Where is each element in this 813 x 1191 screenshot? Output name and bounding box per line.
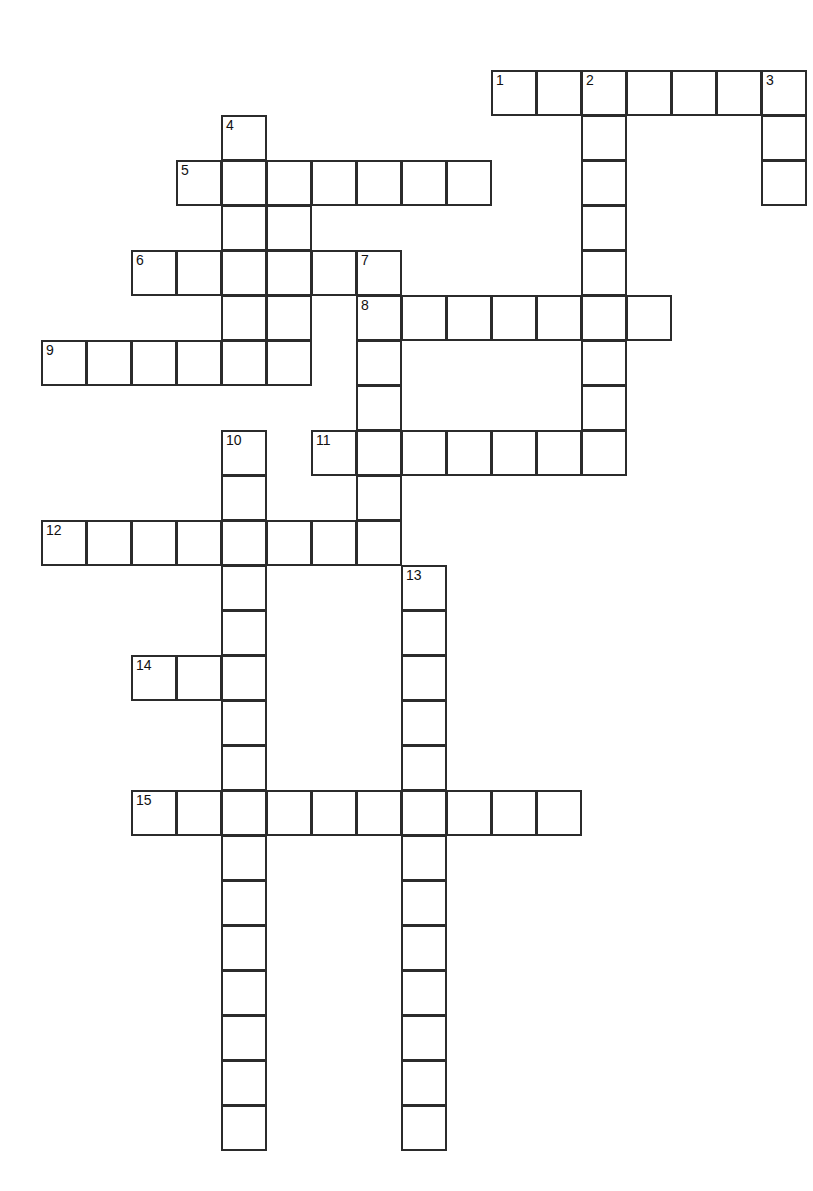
crossword-cell[interactable] (176, 790, 222, 836)
crossword-cell[interactable] (536, 790, 582, 836)
crossword-cell[interactable] (446, 430, 492, 476)
crossword-cell-start-1[interactable]: 1 (491, 70, 537, 116)
crossword-cell[interactable] (401, 160, 447, 206)
crossword-cell[interactable] (626, 70, 672, 116)
crossword-cell[interactable] (401, 700, 447, 746)
crossword-cell-start-9[interactable]: 9 (41, 340, 87, 386)
crossword-cell[interactable] (221, 880, 267, 926)
crossword-cell[interactable] (761, 115, 807, 161)
crossword-cell[interactable] (581, 340, 627, 386)
crossword-cell[interactable] (356, 340, 402, 386)
crossword-cell[interactable] (401, 745, 447, 791)
crossword-cell-start-12[interactable]: 12 (41, 520, 87, 566)
crossword-cell[interactable] (536, 295, 582, 341)
crossword-cell[interactable] (266, 295, 312, 341)
crossword-cell[interactable] (356, 520, 402, 566)
crossword-cell[interactable] (401, 970, 447, 1016)
crossword-cell-start-6[interactable]: 6 (131, 250, 177, 296)
crossword-cell[interactable] (311, 790, 357, 836)
crossword-cell[interactable] (491, 295, 537, 341)
crossword-cell[interactable] (221, 610, 267, 656)
crossword-cell[interactable] (581, 115, 627, 161)
crossword-cell[interactable] (266, 790, 312, 836)
crossword-cell[interactable] (356, 385, 402, 431)
crossword-cell[interactable] (356, 160, 402, 206)
crossword-cell[interactable] (221, 1015, 267, 1061)
crossword-cell[interactable] (221, 1105, 267, 1151)
crossword-cell-start-5[interactable]: 5 (176, 160, 222, 206)
crossword-grid[interactable]: 123456789101112131415 (0, 0, 813, 1191)
crossword-cell[interactable] (221, 745, 267, 791)
crossword-cell[interactable] (311, 520, 357, 566)
crossword-cell[interactable] (176, 250, 222, 296)
crossword-cell[interactable] (221, 790, 267, 836)
crossword-cell[interactable] (581, 160, 627, 206)
crossword-cell[interactable] (311, 160, 357, 206)
crossword-cell[interactable] (221, 475, 267, 521)
crossword-cell[interactable] (221, 520, 267, 566)
crossword-cell-start-3[interactable]: 3 (761, 70, 807, 116)
crossword-cell[interactable] (401, 610, 447, 656)
crossword-cell[interactable] (176, 655, 222, 701)
crossword-cell[interactable] (221, 835, 267, 881)
crossword-cell[interactable] (581, 250, 627, 296)
crossword-cell[interactable] (401, 925, 447, 971)
crossword-cell[interactable] (401, 655, 447, 701)
crossword-cell[interactable] (266, 160, 312, 206)
crossword-cell-start-10[interactable]: 10 (221, 430, 267, 476)
crossword-cell-start-11[interactable]: 11 (311, 430, 357, 476)
crossword-cell[interactable] (221, 700, 267, 746)
crossword-cell[interactable] (581, 205, 627, 251)
crossword-cell[interactable] (221, 340, 267, 386)
crossword-cell[interactable] (581, 295, 627, 341)
crossword-cell[interactable] (176, 340, 222, 386)
crossword-cell[interactable] (311, 250, 357, 296)
crossword-cell[interactable] (356, 790, 402, 836)
crossword-cell[interactable] (221, 160, 267, 206)
crossword-cell[interactable] (221, 655, 267, 701)
crossword-cell[interactable] (266, 205, 312, 251)
crossword-cell[interactable] (671, 70, 717, 116)
crossword-cell-start-2[interactable]: 2 (581, 70, 627, 116)
crossword-cell[interactable] (131, 520, 177, 566)
crossword-cell[interactable] (761, 160, 807, 206)
crossword-cell[interactable] (401, 880, 447, 926)
crossword-cell[interactable] (356, 430, 402, 476)
crossword-cell[interactable] (131, 340, 177, 386)
crossword-cell[interactable] (221, 1060, 267, 1106)
crossword-cell[interactable] (266, 520, 312, 566)
crossword-cell[interactable] (581, 385, 627, 431)
crossword-cell[interactable] (401, 430, 447, 476)
crossword-cell[interactable] (266, 340, 312, 386)
crossword-cell[interactable] (716, 70, 762, 116)
crossword-cell[interactable] (401, 1105, 447, 1151)
crossword-cell[interactable] (536, 70, 582, 116)
crossword-cell[interactable] (221, 295, 267, 341)
crossword-cell[interactable] (401, 295, 447, 341)
crossword-cell[interactable] (401, 1015, 447, 1061)
crossword-cell-start-15[interactable]: 15 (131, 790, 177, 836)
crossword-cell[interactable] (401, 835, 447, 881)
crossword-cell[interactable] (266, 250, 312, 296)
crossword-cell[interactable] (446, 295, 492, 341)
crossword-cell[interactable] (221, 925, 267, 971)
crossword-cell-start-4[interactable]: 4 (221, 115, 267, 161)
crossword-cell[interactable] (221, 250, 267, 296)
crossword-cell[interactable] (176, 520, 222, 566)
crossword-cell[interactable] (446, 160, 492, 206)
crossword-cell[interactable] (581, 430, 627, 476)
crossword-cell-start-8[interactable]: 8 (356, 295, 402, 341)
crossword-cell-start-7[interactable]: 7 (356, 250, 402, 296)
crossword-cell[interactable] (446, 790, 492, 836)
crossword-cell[interactable] (491, 430, 537, 476)
crossword-cell[interactable] (86, 340, 132, 386)
crossword-cell-start-13[interactable]: 13 (401, 565, 447, 611)
crossword-cell[interactable] (401, 1060, 447, 1106)
crossword-cell-start-14[interactable]: 14 (131, 655, 177, 701)
crossword-cell[interactable] (356, 475, 402, 521)
crossword-cell[interactable] (626, 295, 672, 341)
crossword-cell[interactable] (86, 520, 132, 566)
crossword-cell[interactable] (221, 205, 267, 251)
crossword-cell[interactable] (536, 430, 582, 476)
crossword-cell[interactable] (491, 790, 537, 836)
